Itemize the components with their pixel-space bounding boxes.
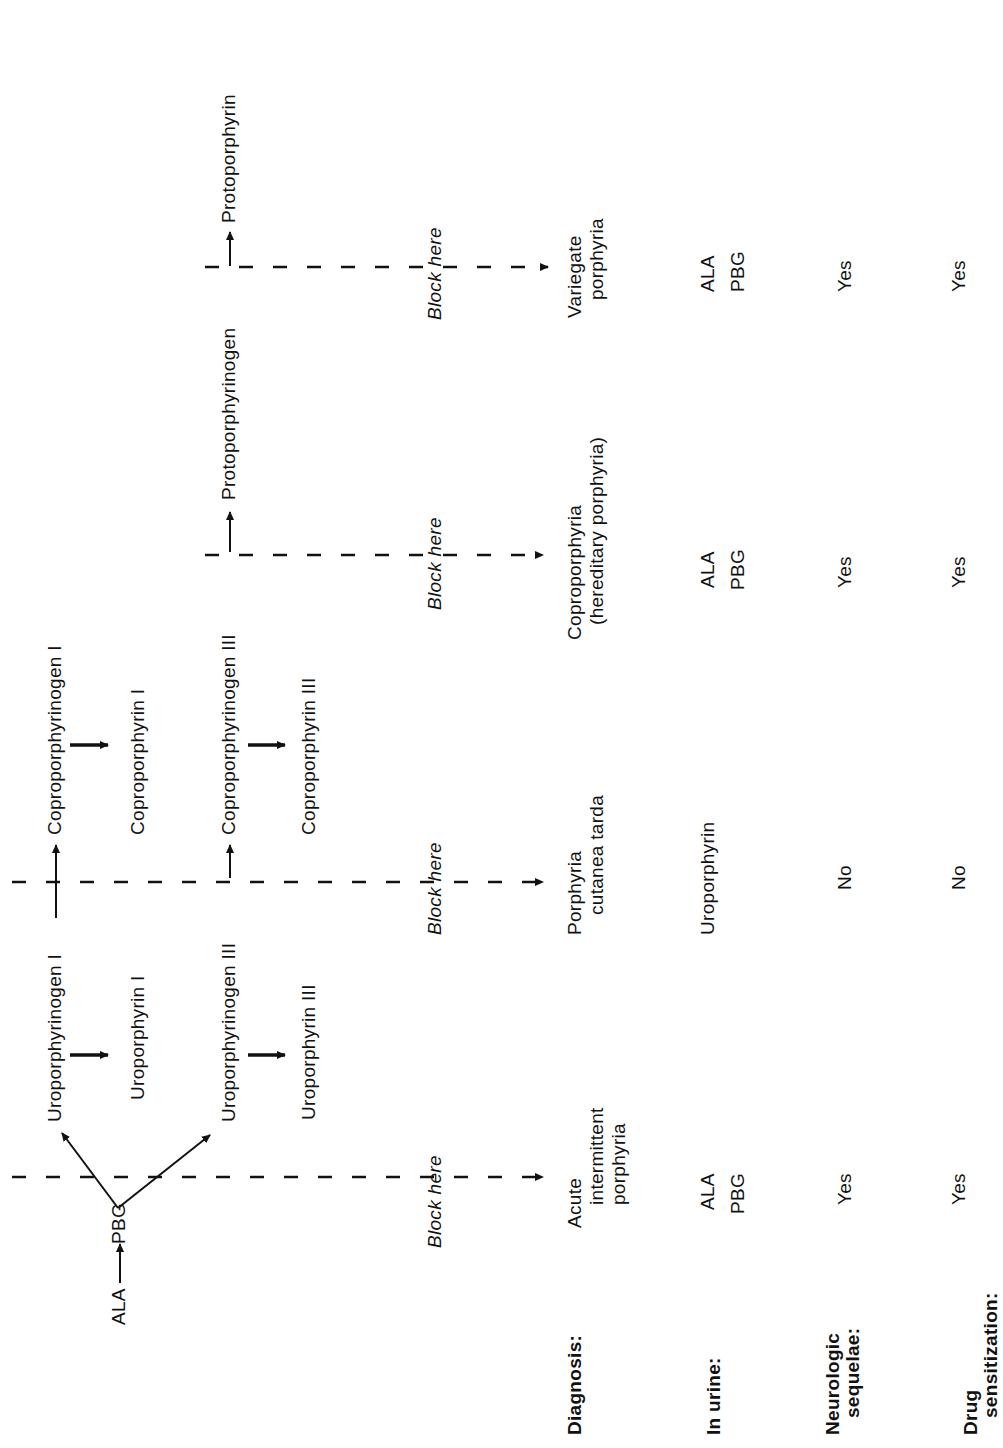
coproporphyrinogen-3: Coproporphyrinogen III [218, 634, 240, 835]
block-here-2: Block here [424, 842, 446, 935]
pbg-label: PBG [108, 1203, 130, 1244]
neuro-4: Yes [834, 260, 856, 292]
neuro-2: No [834, 865, 856, 890]
coproporphyrin-3: Coproporphyrin III [298, 678, 320, 835]
ala-label: ALA [108, 1288, 130, 1325]
neuro-1: Yes [834, 1173, 856, 1205]
row-label-diagnosis: Diagnosis: [564, 1335, 586, 1435]
row-label-sensitization: sensitization: [980, 1292, 1002, 1418]
arrow-pbg-uro3 [118, 1135, 210, 1208]
urine-4-line-2: PBG [727, 251, 749, 292]
diagnosis-3-line-2: (hereditary porphyria) [586, 437, 608, 625]
uroporphyrinogen-1: Uroporphyrinogen I [44, 954, 66, 1122]
urine-3-line-2: PBG [727, 549, 749, 590]
uroporphyrinogen-3: Uroporphyrinogen III [218, 943, 240, 1122]
block-here-1: Block here [424, 1155, 446, 1248]
urine-1-line-2: PBG [727, 1173, 749, 1214]
block-here-4: Block here [424, 227, 446, 320]
pathway-lines [0, 0, 1003, 1448]
coproporphyrin-1: Coproporphyrin I [127, 689, 149, 835]
drug-3: Yes [948, 556, 970, 588]
diagnosis-3-line-1: Coproporphyria [564, 505, 586, 640]
diagnosis-4-line-1: Variegate [564, 235, 586, 318]
urine-4-line-1: ALA [697, 255, 719, 292]
row-label-drug: Drug [960, 1389, 982, 1435]
urine-1-line-1: ALA [697, 1173, 719, 1210]
row-label-sequelae: sequelae: [842, 1328, 864, 1418]
diagnosis-1-line-3: porphyria [608, 1123, 630, 1205]
diagnosis-4-line-2: porphyria [586, 218, 608, 300]
uroporphyrin-1: Uroporphyrin I [127, 975, 149, 1100]
row-label-neurologic: Neurologic [822, 1333, 844, 1435]
diagnosis-1-line-1: Acute [564, 1178, 586, 1228]
diagnosis-1-line-2: intermittent [586, 1107, 608, 1205]
neuro-3: Yes [834, 556, 856, 588]
drug-1: Yes [948, 1173, 970, 1205]
row-label-in-urine: In urine: [703, 1357, 725, 1435]
uroporphyrin-3: Uroporphyrin III [298, 984, 320, 1120]
block-here-3: Block here [424, 517, 446, 610]
coproporphyrinogen-1: Coproporphyrinogen I [44, 645, 66, 835]
protoporphyrin: Protoporphyrin [218, 94, 240, 223]
protoporphyrinogen: Protoporphyrinogen [218, 328, 240, 500]
diagnosis-2-line-2: cutanea tarda [586, 795, 608, 915]
drug-2: No [948, 865, 970, 890]
arrow-pbg-uro1 [62, 1133, 118, 1208]
urine-2-line-1: Uroporphyrin [697, 822, 719, 935]
urine-3-line-1: ALA [697, 551, 719, 588]
drug-4: Yes [948, 260, 970, 292]
diagnosis-2-line-1: Porphyria [564, 851, 586, 935]
